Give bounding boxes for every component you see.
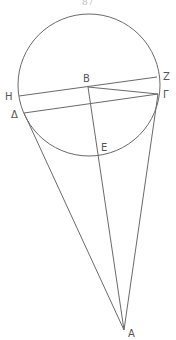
geometry-diagram: 87 B Z Γ H Δ E A (0, 0, 176, 340)
label-b: B (83, 73, 90, 84)
label-e: E (101, 142, 107, 153)
tangent-gamma-a (124, 94, 158, 330)
segment-b-a (88, 87, 124, 330)
tangent-delta-a (24, 113, 124, 330)
circle (18, 14, 160, 156)
label-delta: Δ (11, 109, 18, 120)
label-z: Z (163, 71, 170, 82)
page-number-fragment: 87 (82, 0, 94, 7)
segment-b-gamma (88, 87, 158, 94)
label-gamma: Γ (163, 89, 169, 100)
label-a: A (128, 328, 135, 339)
label-h: H (5, 91, 13, 102)
